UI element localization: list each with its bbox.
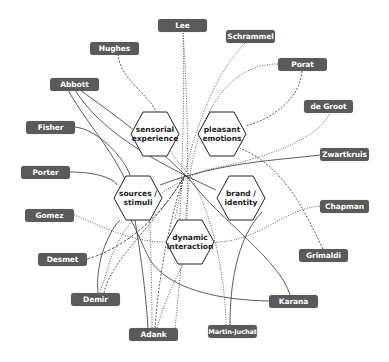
author-grimaldi: Grimaldi	[299, 249, 348, 262]
author-demir: Demir	[71, 293, 120, 306]
hub-sources-stimuli: sources / stimuli	[113, 189, 163, 207]
link-porter	[70, 172, 117, 185]
author-porter: Porter	[21, 166, 70, 179]
link-porat-2	[245, 71, 302, 126]
hub-dynamic-interaction: dynamic interaction	[165, 233, 215, 251]
author-desmet: Desmet	[38, 253, 87, 266]
hub-label-line2: experience	[130, 134, 180, 143]
author-schrammel: Schrammel	[226, 30, 275, 43]
hub-label-line1: pleasant	[197, 125, 247, 134]
author-hughes: Hughes	[90, 42, 139, 55]
hub-label-line1: sensorial	[130, 125, 180, 134]
hub-label-line1: brand /	[216, 189, 266, 198]
hub-label-line2: interaction	[165, 242, 215, 251]
link-adank-2	[150, 220, 152, 328]
author-gomez: Gomez	[25, 209, 74, 222]
author-porat: Porat	[278, 58, 327, 71]
hub-label-line1: sources /	[113, 189, 163, 198]
link-demir-1	[98, 220, 120, 293]
author-zwartkruis: Zwartkruis	[320, 148, 369, 161]
author-lee: Lee	[158, 19, 207, 32]
author-de-groot: de Groot	[304, 100, 353, 113]
author-karana: Karana	[269, 295, 318, 308]
hub-brand-identity: brand / identity	[216, 189, 266, 207]
author-fisher: Fisher	[26, 121, 75, 134]
author-abbott: Abbott	[50, 78, 99, 91]
author-adank: Adank	[129, 328, 178, 341]
hub-sensorial-experience: sensorial experience	[130, 125, 180, 143]
link-adank-1	[135, 220, 148, 328]
diagram-canvas	[0, 0, 389, 362]
hub-label-line1: dynamic	[165, 233, 215, 242]
link-hughes	[118, 54, 156, 112]
hub-label-line2: identity	[216, 198, 266, 207]
author-martin-juchat: Martin-Juchat	[208, 325, 257, 338]
link-martin-1	[230, 212, 262, 325]
author-chapman: Chapman	[320, 200, 369, 213]
hub-pleasant-emotions: pleasant emotions	[197, 125, 247, 143]
link-fisher	[75, 127, 130, 175]
hub-label-line2: emotions	[197, 134, 247, 143]
hub-label-line2: stimuli	[113, 198, 163, 207]
